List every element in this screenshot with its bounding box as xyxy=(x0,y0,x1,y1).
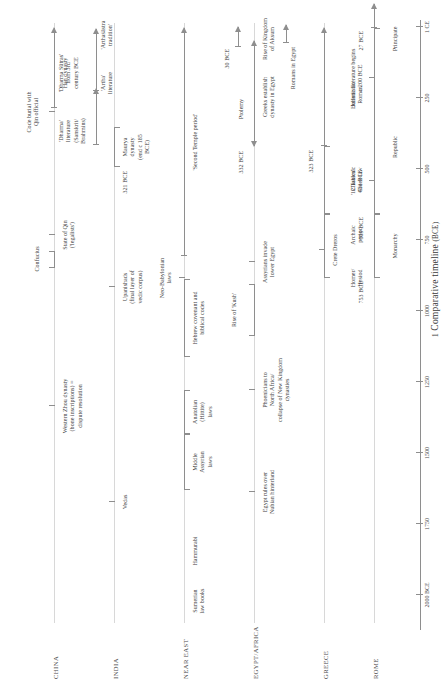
greece-label-323bce: 323 BCE xyxy=(308,150,315,173)
row-label-china: CHINA xyxy=(52,656,59,679)
egypt-label-assyrians: Assyrians invade lower Egypt xyxy=(262,222,277,302)
axis-tick-500 xyxy=(416,168,423,169)
figure-caption: 1 Comparative timeline (BCE) xyxy=(430,222,440,337)
rome-label-republic: Republic xyxy=(392,136,399,158)
egypt-label-kush: Rise of 'Kush' xyxy=(231,293,238,327)
rome-label-509bce: 509 BCE xyxy=(358,217,365,240)
axis-label-2000bce: 2000 BCE xyxy=(424,582,430,607)
neareast-bracket-hebrew-covenant xyxy=(184,279,185,357)
india-label-arthasastra: 'Arthaśāstra tradition' xyxy=(100,9,115,61)
egypt-label-aksum: Rise of Kingdom of Aksum xyxy=(262,2,277,76)
axis-label-250: 250 xyxy=(424,94,430,103)
egypt-arrow-aksum xyxy=(238,27,239,47)
india-label-artha-literature: 'Artha' literature xyxy=(100,60,115,106)
axis-tick-1750 xyxy=(416,523,423,524)
india-tick-upanishads xyxy=(109,286,115,287)
axis-label-1250: 1250 xyxy=(424,376,430,388)
row-label-rome: ROME xyxy=(372,658,379,679)
india-tick-vedas xyxy=(109,501,115,502)
china-label-state-of-qin: State of Qin ('legalists') xyxy=(62,205,77,265)
china-label-code-burial: Code burial with Qin official xyxy=(26,72,41,152)
caption-unit: (BCE) xyxy=(432,222,440,242)
china-tick-code-burial xyxy=(49,111,55,112)
axis-tick-1000 xyxy=(416,310,423,311)
rome-label-principate: Principate xyxy=(392,27,399,52)
greece-label-crete-dreros: Crete Dreros xyxy=(332,234,339,265)
china-label-western-zhou: Western Zhou dynasty (bone inscriptions)… xyxy=(62,358,84,454)
rome-label-753bce: 753 BCE xyxy=(358,281,365,304)
rome-label-twelve-tables: '12 Tables'c 451 BCE xyxy=(350,153,365,209)
egypt-bracket-kush xyxy=(254,284,255,336)
axis-label-1500: 1500 xyxy=(424,447,430,459)
neareast-arrow-second-temple xyxy=(184,28,185,256)
axis-label-1ce: 1 CE xyxy=(424,21,430,33)
egypt-label-romans-in-egypt: Romans in Egypt xyxy=(290,47,297,89)
neareast-label-anatolian: Anatolian (Hittite) laws xyxy=(192,384,214,440)
rome-tick-juristic xyxy=(369,77,375,78)
lane-india xyxy=(114,23,115,623)
timeline-figure: CHINA INDIA NEAR EAST EGYPT/AFRICA GREEC… xyxy=(0,0,446,687)
neareast-label-second-temple: 'Second Temple period' xyxy=(192,114,199,171)
rome-arrow-principate xyxy=(374,4,375,28)
rome-label-monarchy: Monarchy xyxy=(392,233,399,258)
greece-arrow-hellenistic xyxy=(324,28,325,146)
china-bracket-confucius xyxy=(54,251,55,268)
rome-bracket-monarchy xyxy=(374,214,375,278)
india-arrow-dharma-literature xyxy=(96,89,97,145)
china-arrow-han-dynasty xyxy=(54,28,55,108)
axis-label-1750: 1750 xyxy=(424,518,430,530)
row-label-egypt-africa: EGYPT/AFRICA xyxy=(252,626,259,679)
lane-china xyxy=(54,23,55,623)
axis-tick-2000bce xyxy=(416,594,423,595)
timeline-axis xyxy=(420,20,421,630)
axis-tick-250 xyxy=(416,97,423,98)
rome-bracket-republic xyxy=(374,28,375,214)
caption-text: Comparative timeline xyxy=(430,244,440,331)
india-label-upanishads: Upanishads (final layer of vedic corpus) xyxy=(122,249,144,325)
caption-number: 1 xyxy=(432,333,440,337)
egypt-tick-phoenicians xyxy=(249,389,255,390)
egypt-label-nubia: Egypt rules over Nubian hinterland xyxy=(262,445,277,539)
timeline-canvas: CHINA INDIA NEAR EAST EGYPT/AFRICA GREEC… xyxy=(0,0,446,687)
india-bracket-maurya xyxy=(114,127,115,167)
neareast-label-middle-assyrian: Middle Assyrian laws xyxy=(192,433,214,491)
neareast-label-hammurabi: Hammurabi xyxy=(192,536,199,565)
china-tick-state-of-qin xyxy=(49,234,55,235)
axis-tick-750 xyxy=(416,239,423,240)
rome-tick-twelve-tables xyxy=(369,180,375,181)
india-arrow-artha-tradition xyxy=(96,29,97,91)
india-label-dharma-literature: 'Dharma' literature (Sanskrit/ Brahmins) xyxy=(58,104,88,158)
egypt-label-332bce: 332 BCE xyxy=(238,151,245,174)
neareast-bracket-anatolian xyxy=(184,390,185,434)
axis-tick-1ce xyxy=(416,26,423,27)
india-label-maurya-start: 321 BCE xyxy=(122,171,129,194)
axis-tick-1250 xyxy=(416,381,423,382)
egypt-tick-nubia xyxy=(249,491,255,492)
row-label-greece: GREECE xyxy=(322,651,329,679)
egypt-tick-assyrians xyxy=(249,261,255,262)
neareast-label-neo-babylonian: Neo-Babylonian laws xyxy=(159,242,174,314)
rome-label-27bce: 27 BCE xyxy=(358,31,365,50)
neareast-label-sumerian: Sumerian law books xyxy=(192,570,207,632)
china-tick-western-zhou xyxy=(49,405,55,406)
china-label-confucius: Confucius xyxy=(34,246,41,271)
axis-label-500: 500 xyxy=(424,165,430,174)
egypt-label-phoenicians: Phoenicians to North Africa/ collapse of… xyxy=(262,337,292,443)
egypt-arrow-romans xyxy=(286,25,287,43)
egypt-label-ptolemy: Ptolemy xyxy=(238,99,245,119)
india-label-dharma-sutras: 'Dharma Sūtras' from 3rd century BCE xyxy=(58,49,80,97)
axis-tick-1500 xyxy=(416,452,423,453)
neareast-tick-neo-babylonian xyxy=(179,277,185,278)
neareast-label-hebrew-covenant: Hebrew covenant and biblical codes xyxy=(192,270,207,366)
greece-bracket-classical xyxy=(324,146,325,214)
india-label-vedas: Vedas xyxy=(122,495,129,510)
greece-bracket-archaic xyxy=(324,214,325,278)
row-label-india: INDIA xyxy=(112,658,119,679)
neareast-bracket-middle-assyrian xyxy=(184,434,185,490)
egypt-label-30bce: 30 BCE xyxy=(224,49,231,68)
egypt-arrow-ptolemy xyxy=(254,41,255,146)
row-label-near-east: NEAR EAST xyxy=(182,639,189,679)
